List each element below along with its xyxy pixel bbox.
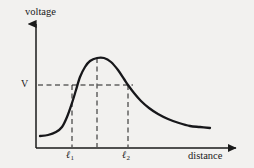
x-axis-label: distance	[188, 151, 222, 162]
x-axis-tick-label-l2: ℓ2	[122, 150, 130, 162]
y-axis-label: voltage	[25, 7, 56, 18]
l1-subscript: 1	[70, 154, 74, 162]
voltage-distance-figure: voltage distance V ℓ1 ℓ2	[0, 0, 254, 168]
y-axis-tick-label-v: V	[21, 79, 28, 89]
voltage-curve	[40, 58, 210, 136]
plot-canvas	[0, 0, 254, 168]
l2-subscript: 2	[126, 154, 130, 162]
x-axis-tick-label-l1: ℓ1	[66, 150, 74, 162]
